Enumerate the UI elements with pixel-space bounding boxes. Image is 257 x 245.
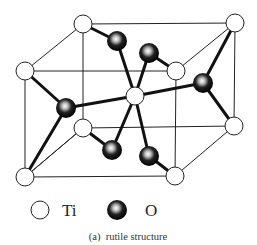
o-atom — [107, 31, 127, 51]
legend-ti-icon — [31, 201, 49, 219]
o-atom — [102, 140, 122, 160]
ti-atom — [167, 62, 185, 80]
legend-o-icon — [107, 200, 127, 220]
ti-atom — [16, 62, 34, 80]
figure-caption: (a) rutile structure — [89, 231, 168, 243]
legend-o-label: O — [145, 201, 157, 220]
thin-bonds — [25, 128, 83, 177]
ti-atom — [74, 119, 92, 137]
rutile-structure-diagram: Ti O (a) rutile structure — [0, 0, 257, 245]
ti-atom — [226, 14, 244, 32]
ti-atom — [126, 87, 144, 105]
o-atom — [56, 98, 76, 118]
legend-ti-label: Ti — [62, 201, 77, 220]
legend: Ti O — [31, 200, 157, 220]
o-atom — [139, 146, 159, 166]
ti-atom — [166, 167, 184, 185]
o-atom — [139, 43, 159, 63]
ti-atom — [16, 168, 34, 186]
o-atom — [193, 73, 213, 93]
ti-atom — [74, 15, 92, 33]
ti-atoms — [16, 14, 244, 186]
ti-atom — [225, 117, 243, 135]
